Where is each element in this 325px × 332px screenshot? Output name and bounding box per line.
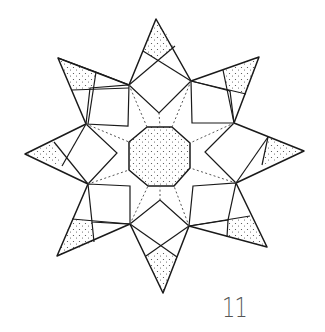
page-number: 11 (222, 293, 247, 323)
star-drawing (0, 0, 325, 332)
star-diagram: 11 (0, 0, 325, 332)
